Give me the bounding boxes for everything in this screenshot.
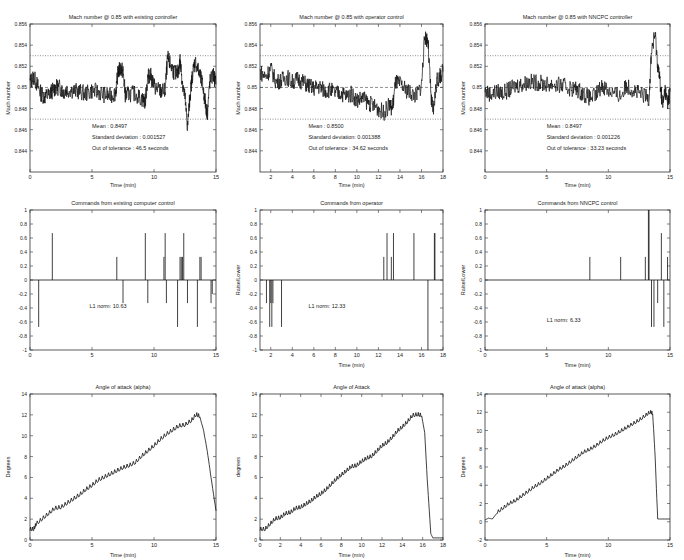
- chart-title: Angle of attack (alpha): [550, 384, 605, 390]
- x-axis-label: Time (min): [338, 362, 364, 368]
- y-tick-label: 6: [479, 464, 482, 470]
- y-tick-label: 14: [476, 391, 482, 397]
- y-tick-label: 0.856: [244, 21, 257, 27]
- x-tick-label: 5: [90, 352, 93, 358]
- stat-annotation: Standard deviation : 0.001226: [547, 134, 620, 140]
- y-tick-label: 4: [24, 495, 27, 501]
- x-tick-label: 8: [334, 352, 337, 358]
- panel-aoa-operator: Angle of Attack0246810121416180246810121…: [230, 370, 457, 560]
- x-tick-label: 15: [213, 352, 219, 358]
- y-tick-label: 0.852: [244, 63, 257, 69]
- y-tick-label: 2: [254, 516, 257, 522]
- mach-existing-chart: Mach number @ 0.85 with existing control…: [0, 0, 230, 190]
- x-tick-label: 16: [418, 174, 424, 180]
- y-tick-label: -0.4: [248, 305, 257, 311]
- stat-annotation: Mean : 0.8497: [547, 123, 582, 129]
- y-tick-label: 0: [254, 277, 257, 283]
- y-tick-label: 2: [479, 501, 482, 507]
- y-tick-label: 4: [254, 495, 257, 501]
- y-tick-label: 1: [479, 207, 482, 213]
- y-tick-label: 0.848: [469, 106, 482, 112]
- x-tick-label: 10: [354, 174, 360, 180]
- panel-mach-existing: Mach number @ 0.85 with existing control…: [0, 0, 230, 190]
- data-line: [260, 32, 443, 121]
- y-tick-label: 0.844: [244, 148, 257, 154]
- x-tick-label: 15: [667, 542, 673, 548]
- x-tick-label: 18: [440, 542, 446, 548]
- y-tick-label: -0.2: [473, 291, 482, 297]
- y-tick-label: 0.2: [20, 263, 27, 269]
- x-tick-label: 0: [28, 352, 31, 358]
- x-tick-label: 0: [483, 352, 486, 358]
- y-tick-label: 0.848: [14, 106, 27, 112]
- x-tick-label: 14: [399, 542, 405, 548]
- x-tick-label: 4: [291, 352, 294, 358]
- y-tick-label: 0.852: [14, 63, 27, 69]
- y-axis-label: Raise/Lower: [235, 265, 241, 296]
- y-tick-label: 14: [251, 391, 257, 397]
- data-line: [30, 413, 216, 531]
- panel-aoa-existing: Angle of attack (alpha)05101502468101214…: [0, 370, 230, 560]
- y-tick-label: 0.856: [14, 21, 27, 27]
- y-tick-label: 0.8: [250, 221, 257, 227]
- y-tick-label: 2: [24, 516, 27, 522]
- stat-annotation: L1 norm: 6.33: [547, 317, 581, 323]
- x-tick-label: 0: [483, 542, 486, 548]
- y-tick-label: -1: [253, 347, 258, 353]
- x-axis-label: Time (min): [110, 552, 136, 558]
- chart-title: Angle of Attack: [333, 384, 370, 390]
- stat-annotation: Out of tolerance : 34.62 seconds: [308, 145, 388, 151]
- aoa-operator-chart: Angle of Attack0246810121416180246810121…: [230, 370, 457, 560]
- x-tick-label: 14: [397, 174, 403, 180]
- y-tick-label: -1: [23, 347, 28, 353]
- y-tick-label: 0.844: [14, 148, 27, 154]
- y-tick-label: 0.6: [250, 235, 257, 241]
- figure-grid: Mach number @ 0.85 with existing control…: [0, 0, 684, 560]
- x-tick-label: 15: [213, 174, 219, 180]
- stat-annotation: Out of tolerance : 46.5 seconds: [92, 145, 169, 151]
- stat-annotation: Standard deviation: 0.001388: [308, 134, 380, 140]
- commands-nncpc-chart: Commands from NNCPC control051015-1-0.8-…: [455, 190, 684, 370]
- y-tick-label: -2: [478, 537, 483, 543]
- y-tick-label: 0.854: [244, 42, 257, 48]
- y-axis-label: Mach number: [5, 81, 11, 115]
- x-tick-label: 10: [354, 352, 360, 358]
- chart-title: Commands from NNCPC control: [538, 200, 618, 206]
- y-tick-label: 0.846: [244, 127, 257, 133]
- mach-nncpc-chart: Mach number @ 0.85 with NNCPC controller…: [455, 0, 684, 190]
- x-tick-label: 2: [269, 352, 272, 358]
- panel-commands-nncpc: Commands from NNCPC control051015-1-0.8-…: [455, 190, 684, 370]
- x-tick-label: 5: [545, 352, 548, 358]
- chart-title: Commands from operator: [320, 200, 383, 206]
- x-tick-label: 4: [299, 542, 302, 548]
- y-tick-label: 0: [479, 519, 482, 525]
- x-axis-label: Time (min): [110, 182, 136, 188]
- x-axis-label: Time (min): [564, 182, 590, 188]
- x-tick-label: 6: [312, 352, 315, 358]
- y-tick-label: 14: [21, 391, 27, 397]
- x-tick-label: 5: [545, 542, 548, 548]
- stat-annotation: L1 norm: 12.33: [308, 303, 345, 309]
- y-tick-label: 12: [251, 412, 257, 418]
- y-tick-label: 0.4: [250, 249, 257, 255]
- x-tick-label: 16: [420, 542, 426, 548]
- y-axis-label: Mach number: [460, 81, 466, 115]
- y-tick-label: 0.8: [475, 221, 482, 227]
- y-tick-label: 8: [479, 446, 482, 452]
- x-axis-label: Time (min): [564, 362, 590, 368]
- y-tick-label: 0.844: [469, 148, 482, 154]
- y-tick-label: 0.852: [469, 63, 482, 69]
- x-tick-label: 16: [418, 352, 424, 358]
- y-tick-label: 10: [476, 428, 482, 434]
- chart-title: Mach number @ 0.85 with operator control: [299, 14, 403, 20]
- commands-operator-chart: Commands from operator24681012141618-1-0…: [230, 190, 457, 370]
- data-line: [485, 32, 670, 109]
- x-tick-label: 10: [151, 352, 157, 358]
- x-tick-label: 2: [269, 174, 272, 180]
- y-tick-label: 0.8: [20, 221, 27, 227]
- x-tick-label: 6: [319, 542, 322, 548]
- y-tick-label: 1: [24, 207, 27, 213]
- x-tick-label: 15: [667, 352, 673, 358]
- aoa-existing-chart: Angle of attack (alpha)05101502468101214…: [0, 370, 230, 560]
- y-tick-label: 10: [21, 433, 27, 439]
